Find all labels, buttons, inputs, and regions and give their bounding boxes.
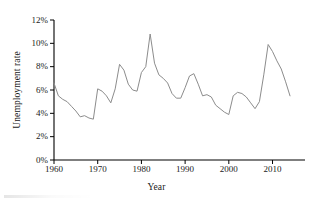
x-tick-label: 1980: [124, 164, 158, 174]
x-tick-label: 2010: [256, 164, 290, 174]
x-tick-label: 1990: [168, 164, 202, 174]
x-tick-label: 1970: [81, 164, 115, 174]
scan-artifact: [4, 195, 124, 198]
y-axis-title: Unemployment rate: [12, 42, 22, 138]
y-tick-label: 10%: [22, 38, 48, 48]
y-tick-marks: [50, 20, 54, 160]
chart-axes: [54, 20, 305, 160]
series-line: [54, 34, 290, 119]
x-tick-label: 2000: [212, 164, 246, 174]
y-tick-label: 6%: [22, 85, 48, 95]
y-tick-label: 2%: [22, 131, 48, 141]
x-tick-label: 1960: [37, 164, 71, 174]
y-tick-label: 0%: [22, 155, 48, 165]
data-series-group: [54, 34, 290, 119]
unemployment-rate-chart: 0%2%4%6%8%10%12% 19601970198019902000201…: [0, 0, 313, 203]
x-axis-title: Year: [0, 182, 313, 192]
y-tick-label: 12%: [22, 15, 48, 25]
y-tick-label: 4%: [22, 108, 48, 118]
y-tick-label: 8%: [22, 61, 48, 71]
